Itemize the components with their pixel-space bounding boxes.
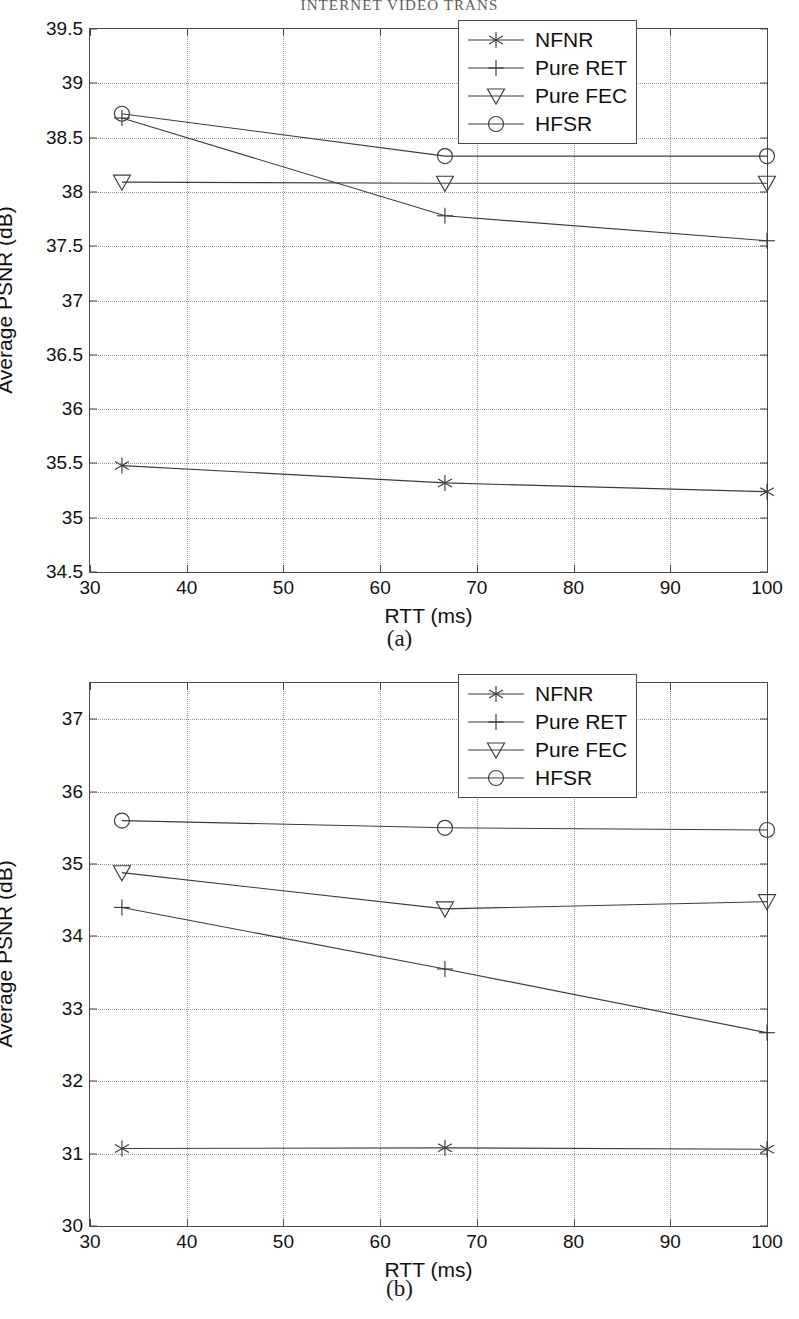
y-tick-label: 38 (62, 181, 83, 203)
legend-label: Pure FEC (535, 84, 627, 108)
legend-label: Pure RET (535, 56, 627, 80)
legend-label: NFNR (535, 28, 593, 52)
subfigure-a: 34.53535.53636.53737.53838.53939.5304050… (0, 18, 799, 608)
legend-marker-asterisk (466, 683, 526, 705)
chart-legend: NFNRPure RETPure FECHFSR (458, 20, 637, 144)
legend-sample (466, 683, 526, 705)
x-tick-label: 60 (370, 1231, 391, 1253)
legend-marker-asterisk (466, 29, 526, 51)
series-pure-fec (113, 175, 775, 191)
series-nfnr (115, 1140, 774, 1157)
x-tick-label: 100 (751, 1231, 783, 1253)
subfigure-caption-b: (b) (0, 1276, 799, 1302)
x-tick-label: 40 (176, 577, 197, 599)
x-tick-label: 80 (563, 1231, 584, 1253)
legend-label: Pure FEC (535, 738, 627, 762)
series-pure-fec (113, 866, 775, 917)
y-tick-label: 33 (62, 998, 83, 1020)
legend-marker-plus (466, 57, 526, 79)
y-tick-label: 34.5 (46, 561, 83, 583)
marker-plus (759, 1025, 775, 1041)
y-tick-label: 39 (62, 72, 83, 94)
legend-label: HFSR (535, 112, 592, 136)
x-axis-title: RTT (ms) (90, 604, 767, 628)
legend-sample (466, 113, 526, 135)
legend-sample (466, 767, 526, 789)
x-tick-label: 50 (273, 577, 294, 599)
plot-area-b: 303132333435363730405060708090100RTT (ms… (89, 682, 768, 1227)
series-hfsr (114, 106, 774, 163)
x-tick-label: 70 (466, 577, 487, 599)
legend-sample (466, 711, 526, 733)
y-tick-label: 37.5 (46, 235, 83, 257)
marker-plus (437, 961, 453, 977)
x-tick-mark (767, 565, 768, 572)
legend-item-pure-fec: Pure FEC (466, 82, 627, 110)
y-tick-label: 35.5 (46, 452, 83, 474)
marker-plus (488, 714, 504, 730)
series-layer (90, 683, 767, 1226)
legend-marker-plus (466, 711, 526, 733)
y-tick-label: 35 (62, 507, 83, 529)
x-tick-mark (767, 29, 768, 36)
x-tick-label: 90 (660, 1231, 681, 1253)
legend-item-pure-ret: Pure RET (466, 54, 627, 82)
x-tick-mark (767, 683, 768, 690)
legend-sample (466, 739, 526, 761)
y-tick-label: 34 (62, 925, 83, 947)
x-tick-label: 80 (563, 577, 584, 599)
x-tick-label: 100 (751, 577, 783, 599)
marker-plus (114, 899, 130, 915)
plot-area-a: 34.53535.53636.53737.53838.53939.5304050… (89, 28, 768, 573)
y-tick-label: 39.5 (46, 18, 83, 40)
x-tick-label: 90 (660, 577, 681, 599)
y-axis-title-a: Average PSNR (dB) (0, 140, 17, 460)
legend-item-hfsr: HFSR (466, 110, 627, 138)
legend-marker-triangle-down (466, 739, 526, 761)
legend-item-pure-fec: Pure FEC (466, 736, 627, 764)
y-tick-label: 36 (62, 398, 83, 420)
series-layer (90, 29, 767, 572)
marker-plus (759, 233, 775, 249)
legend-item-hfsr: HFSR (466, 764, 627, 792)
legend-sample (466, 57, 526, 79)
y-tick-label: 32 (62, 1070, 83, 1092)
legend-marker-circle (466, 767, 526, 789)
figure-page: INTERNET VIDEO TRANS 34.53535.53636.5373… (0, 0, 799, 1319)
y-tick-label: 36 (62, 781, 83, 803)
chart-a: 34.53535.53636.53737.53838.53939.5304050… (0, 18, 799, 578)
legend-marker-triangle-down (466, 85, 526, 107)
legend-label: Pure RET (535, 710, 627, 734)
legend-label: HFSR (535, 766, 592, 790)
y-tick-label: 37 (62, 290, 83, 312)
x-tick-label: 30 (79, 577, 100, 599)
y-tick-label: 35 (62, 853, 83, 875)
subfigure-b: 303132333435363730405060708090100RTT (ms… (0, 672, 799, 1292)
legend-label: NFNR (535, 682, 593, 706)
legend-sample (466, 85, 526, 107)
x-tick-label: 30 (79, 1231, 100, 1253)
x-tick-label: 40 (176, 1231, 197, 1253)
chart-b: 303132333435363730405060708090100RTT (ms… (0, 672, 799, 1232)
series-nfnr (115, 458, 774, 500)
chart-legend: NFNRPure RETPure FECHFSR (458, 674, 637, 798)
marker-plus (488, 60, 504, 76)
y-axis-title-b: Average PSNR (dB) (0, 794, 17, 1114)
legend-item-nfnr: NFNR (466, 680, 627, 708)
legend-item-pure-ret: Pure RET (466, 708, 627, 736)
series-pure-ret (114, 110, 775, 249)
x-tick-mark (767, 1219, 768, 1226)
x-tick-label: 50 (273, 1231, 294, 1253)
legend-marker-circle (466, 113, 526, 135)
y-tick-label: 31 (62, 1143, 83, 1165)
y-tick-label: 37 (62, 708, 83, 730)
y-tick-label: 36.5 (46, 344, 83, 366)
subfigure-caption-a: (a) (0, 626, 799, 652)
legend-item-nfnr: NFNR (466, 26, 627, 54)
x-tick-label: 60 (370, 577, 391, 599)
series-hfsr (114, 813, 774, 837)
running-head: INTERNET VIDEO TRANS (0, 0, 799, 14)
marker-plus (437, 208, 453, 224)
legend-sample (466, 29, 526, 51)
y-tick-label: 38.5 (46, 127, 83, 149)
